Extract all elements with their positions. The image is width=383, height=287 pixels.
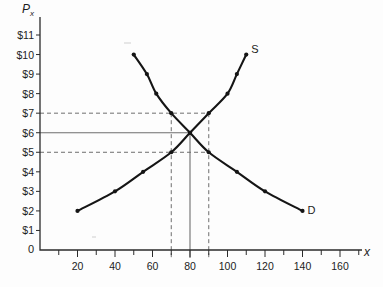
x-tick-label-40: 40 (102, 260, 128, 272)
y-axis-title: Px (22, 2, 34, 18)
x-axis-title: x (364, 245, 370, 259)
x-tick-label-160: 160 (327, 260, 353, 272)
y-tick-label-5: $5 (0, 146, 34, 158)
supply-curve-label: S (251, 43, 258, 55)
demand-curve-label: D (308, 204, 316, 216)
data-point-d-50 (132, 52, 136, 56)
y-tick-label-11: $11 (0, 29, 34, 41)
data-point-d-140 (300, 209, 304, 213)
y-tick-label-3: $3 (0, 185, 34, 197)
y-tick-label-1: $1 (0, 224, 34, 236)
data-point-s-105 (235, 72, 239, 76)
data-point-s-100 (225, 92, 229, 96)
y-tick-label-2: $2 (0, 205, 34, 217)
data-point-d-90 (207, 150, 211, 154)
y-tick-label-10: $10 (0, 49, 34, 61)
origin-label: 0 (28, 243, 34, 255)
data-point-s-40 (113, 189, 117, 193)
supply-demand-chart: Px x 0 $1$2$3$4$5$6$7$8$9$10$11 20406080… (0, 0, 383, 287)
data-point-d-57 (145, 72, 149, 76)
data-point-s-20 (75, 209, 79, 213)
x-tick-label-80: 80 (177, 260, 203, 272)
paper-smudge-lower (92, 236, 96, 238)
data-point-d-120 (263, 189, 267, 193)
y-tick-label-4: $4 (0, 166, 34, 178)
data-point-s-110 (244, 52, 248, 56)
axes-group (36, 17, 362, 257)
x-tick-label-100: 100 (215, 260, 241, 272)
paper-smudge-top (124, 42, 131, 44)
x-tick-label-20: 20 (65, 260, 91, 272)
y-tick-label-7: $7 (0, 107, 34, 119)
y-tick-label-9: $9 (0, 68, 34, 80)
y-axis-title-text: P (22, 2, 30, 16)
data-point-d-70 (169, 111, 173, 115)
data-point-d-62 (154, 92, 158, 96)
y-axis-title-subscript: x (30, 9, 34, 18)
data-point-s-55 (141, 170, 145, 174)
y-tick-label-8: $8 (0, 88, 34, 100)
data-point-d-80 (188, 131, 192, 135)
y-tick-label-6: $6 (0, 127, 34, 139)
data-point-s-70 (169, 150, 173, 154)
chart-canvas (0, 0, 383, 287)
x-tick-label-120: 120 (252, 260, 278, 272)
data-point-d-105 (235, 170, 239, 174)
x-tick-label-60: 60 (140, 260, 166, 272)
x-tick-label-140: 140 (290, 260, 316, 272)
data-point-s-90 (207, 111, 211, 115)
